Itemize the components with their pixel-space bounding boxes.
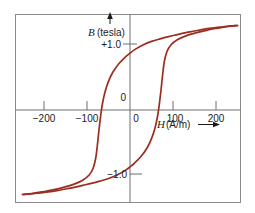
y-tick-label-zero: 0 xyxy=(120,92,126,103)
y-axis-unit-label: (tesla) xyxy=(97,27,125,38)
hysteresis-plot: B (tesla) +1.0 0 −1.0 −200 −100 0 100 20… xyxy=(0,0,255,213)
y-axis-arrow-icon xyxy=(107,12,113,24)
x-axis-unit-label: (A/m) xyxy=(166,119,190,130)
x-axis-symbol-label: H xyxy=(156,118,166,130)
x-tick-label-minus-200: −200 xyxy=(33,113,56,124)
x-tick-label-zero: 0 xyxy=(133,113,139,124)
x-tick-label-minus-100: −100 xyxy=(76,113,99,124)
x-tick-label-200: 200 xyxy=(208,113,225,124)
y-axis-symbol-label: B xyxy=(88,26,95,38)
y-tick-label-plus-one: +1.0 xyxy=(101,39,121,50)
plot-frame xyxy=(16,15,241,203)
y-tick-label-minus-one: −1.0 xyxy=(107,169,127,180)
hysteresis-loop-figure: B (tesla) +1.0 0 −1.0 −200 −100 0 100 20… xyxy=(0,0,255,213)
